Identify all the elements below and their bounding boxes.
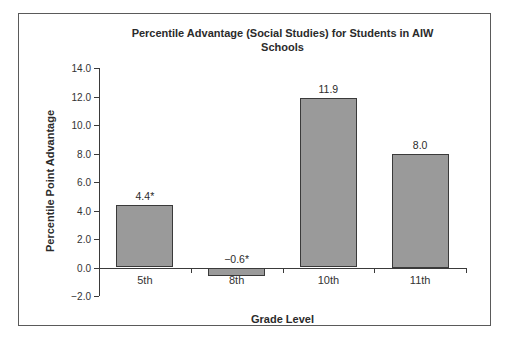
x-tick: [466, 268, 467, 273]
x-tick: [191, 268, 192, 273]
y-tick-label: 6.0: [55, 177, 91, 188]
y-tick: [94, 97, 99, 98]
bar-value-label-5th: 4.4*: [136, 190, 155, 202]
y-axis-line: [99, 68, 100, 296]
y-tick-label: 0.0: [55, 262, 91, 273]
plot-area: 14.012.010.08.06.04.02.00.0−2.04.4*5th−0…: [19, 14, 490, 325]
y-tick: [94, 154, 99, 155]
bar-value-label-11th: 8.0: [413, 139, 428, 151]
y-tick-label: 8.0: [55, 148, 91, 159]
x-category-label-11th: 11th: [410, 274, 431, 286]
x-tick: [374, 268, 375, 273]
x-category-label-10th: 10th: [318, 274, 339, 286]
bar-11th: [392, 154, 449, 268]
y-tick: [94, 68, 99, 69]
bar-value-label-8th: −0.6*: [224, 253, 249, 265]
x-category-label-5th: 5th: [137, 274, 152, 286]
x-tick: [283, 268, 284, 273]
bar-10th: [300, 98, 357, 268]
y-tick: [94, 239, 99, 240]
y-tick: [94, 125, 99, 126]
y-tick-label: 10.0: [55, 120, 91, 131]
y-tick-label: 12.0: [55, 91, 91, 102]
x-category-label-8th: 8th: [229, 274, 244, 286]
y-tick: [94, 182, 99, 183]
y-tick: [94, 268, 99, 269]
bar-5th: [116, 205, 173, 268]
y-tick: [94, 296, 99, 297]
y-tick-label: 4.0: [55, 205, 91, 216]
chart-figure: Percentile Advantage (Social Studies) fo…: [18, 13, 491, 326]
y-tick-label: 14.0: [55, 63, 91, 74]
bar-value-label-10th: 11.9: [319, 83, 339, 95]
y-tick-label: 2.0: [55, 234, 91, 245]
y-tick: [94, 211, 99, 212]
y-tick-label: −2.0: [55, 291, 91, 302]
